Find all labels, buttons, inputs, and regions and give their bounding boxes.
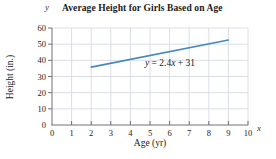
y-tick-label: 20 [38,88,47,98]
x-tick-label: 5 [148,128,152,138]
x-axis-label: Age (yr) [52,138,248,148]
y-tick-label: 50 [38,39,47,49]
x-tick-label: 0 [50,128,54,138]
y-tick-label: 60 [38,23,47,33]
x-tick-label: 1 [69,128,73,138]
x-tick-label: 4 [128,128,133,138]
chart: Average Height for Girls Based on Age y … [0,0,276,159]
x-tick-label: 9 [226,128,230,138]
y-tick-label: 10 [38,104,47,114]
line-equation: y = 2.4x + 31 [145,58,195,68]
y-tick-label: 0 [42,120,46,130]
y-axis-label: Height (in.) [5,41,15,113]
x-tick-label: 8 [207,128,211,138]
x-tick-label: 10 [244,128,253,138]
y-tick-label: 30 [38,72,47,82]
x-tick-label: 2 [89,128,93,138]
x-tick-label: 7 [187,128,191,138]
y-tick-label: 40 [38,55,47,65]
equation-middle: = 2.4 [149,58,171,68]
plot-svg: 0123456789100102030405060 [0,0,276,159]
x-tick-label: 3 [109,128,113,138]
x-tick-label: 6 [167,128,171,138]
equation-tail: + 31 [175,58,195,68]
